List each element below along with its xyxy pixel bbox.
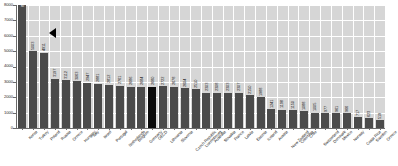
bar[interactable] (267, 109, 275, 128)
x-axis-labels: KoreaTurkeyPolandRussiaGreeceHungaryItal… (17, 130, 385, 166)
x-axis-tick-mark (87, 128, 88, 130)
bar-slot: 2150 (246, 5, 254, 128)
y-axis-tick-mark (13, 5, 16, 6)
bar-value-label: 961 (335, 106, 339, 112)
bar-value-label: 2604 (183, 78, 187, 86)
bar-value-label: 977 (324, 105, 328, 111)
y-axis-tick-label: 7000 (0, 18, 13, 22)
x-axis-tick-mark (369, 128, 370, 130)
bar[interactable] (29, 51, 37, 128)
bar[interactable] (213, 93, 221, 128)
x-axis-label: Iceland (266, 130, 278, 142)
bar[interactable] (246, 95, 254, 128)
bar-slot: 3197 (51, 5, 59, 128)
bar-slot: 1088 (300, 5, 308, 128)
bar[interactable] (311, 113, 319, 128)
bar[interactable] (181, 88, 189, 128)
bar[interactable] (18, 5, 26, 128)
bar[interactable] (235, 93, 243, 128)
bar-value-label: 717 (356, 109, 360, 115)
y-axis-tick-mark (13, 51, 16, 52)
bar[interactable] (137, 87, 145, 128)
y-axis-line (16, 5, 17, 128)
bar-slot: 4911 (40, 5, 48, 128)
x-axis-label: Turkey (39, 130, 50, 141)
bar[interactable] (321, 113, 329, 128)
y-axis-tick-mark (13, 113, 16, 114)
bar-slot: 1988 (257, 5, 265, 128)
bar-value-label: 2308 (216, 83, 220, 91)
x-axis-tick-mark (185, 128, 186, 130)
bar-value-label: 519 (378, 112, 382, 118)
bar[interactable] (257, 97, 265, 128)
x-axis-tick-mark (315, 128, 316, 130)
bar[interactable] (116, 86, 124, 128)
x-axis-tick-mark (22, 128, 23, 130)
bar[interactable] (376, 120, 384, 128)
bar-value-label: 2307 (237, 83, 241, 91)
bar[interactable] (94, 84, 102, 128)
bar[interactable] (202, 93, 210, 128)
bar-value-label: 1088 (302, 102, 306, 110)
bar[interactable] (62, 80, 70, 128)
bar-slot: 717 (354, 5, 362, 128)
bar[interactable] (105, 85, 113, 128)
bar[interactable] (40, 53, 48, 129)
x-axis-tick-mark (131, 128, 132, 130)
bar-slot: 1150 (289, 5, 297, 128)
y-axis-tick-label: 1000 (0, 111, 13, 115)
x-axis-tick-mark (250, 128, 251, 130)
x-axis-tick-mark (271, 128, 272, 130)
bar[interactable] (332, 113, 340, 128)
x-axis-tick-mark (44, 128, 45, 130)
bar[interactable] (224, 93, 232, 128)
bar[interactable] (354, 117, 362, 128)
bar-value-label: 5003 (32, 42, 36, 50)
bar[interactable] (51, 79, 59, 128)
bar-slot: 623 (365, 5, 373, 128)
bar[interactable] (170, 87, 178, 128)
x-axis-label: Greece (72, 130, 84, 142)
bar-slot: 1241 (267, 5, 275, 128)
bar-value-label: 2686 (129, 77, 133, 85)
bar[interactable] (83, 83, 91, 128)
bar[interactable] (127, 87, 135, 128)
bar[interactable] (278, 110, 286, 128)
x-axis-tick-mark (109, 128, 110, 130)
y-axis-tick-mark (13, 67, 16, 68)
x-axis-tick-mark (325, 128, 326, 130)
bar[interactable] (148, 87, 156, 128)
bar-value-label: 2678 (172, 77, 176, 85)
bar-value-label: 1005 (313, 103, 317, 111)
x-axis-label: Russia (61, 130, 72, 141)
bar-slot: 2881 (94, 5, 102, 128)
x-axis-tick-mark (282, 128, 283, 130)
x-axis-tick-mark (206, 128, 207, 130)
bar-slot: 2307 (235, 5, 243, 128)
bar[interactable] (289, 110, 297, 128)
bar[interactable] (300, 111, 308, 128)
x-axis-label: Portugal (115, 130, 128, 143)
bar[interactable] (159, 86, 167, 128)
bar-value-label: 8000 (21, 0, 25, 7)
bar-slot: 2303 (202, 5, 210, 128)
x-axis-line (16, 128, 385, 129)
bar-slot: 2510 (192, 5, 200, 128)
y-axis-tick-mark (13, 82, 16, 83)
x-axis-label: Korea (28, 130, 38, 140)
x-axis-tick-mark (77, 128, 78, 130)
x-axis-tick-mark (55, 128, 56, 130)
bar-value-label: 2947 (86, 73, 90, 81)
bar[interactable] (192, 89, 200, 128)
bar-value-label: 1198 (280, 100, 284, 108)
x-axis-tick-mark (336, 128, 337, 130)
bar[interactable] (73, 81, 81, 128)
bar-slot: 2680 (148, 5, 156, 128)
bar-value-label: 3197 (53, 69, 57, 77)
y-axis-tick-label: 4000 (0, 64, 13, 68)
x-axis-tick-mark (141, 128, 142, 130)
bar[interactable] (365, 118, 373, 128)
bar[interactable] (343, 113, 351, 128)
bar-value-label: 2812 (107, 75, 111, 83)
